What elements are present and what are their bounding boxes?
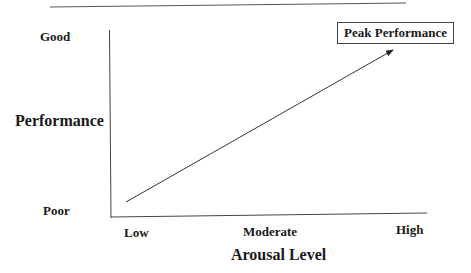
peak-performance-box: Peak Performance — [337, 22, 454, 44]
y-axis-title: Performance — [15, 112, 104, 130]
x-label-high: High — [396, 222, 423, 238]
top-rule — [50, 3, 406, 7]
trend-arrow — [126, 50, 393, 202]
x-label-moderate: Moderate — [243, 224, 297, 240]
y-label-good: Good — [40, 29, 70, 45]
y-axis — [110, 30, 112, 218]
x-label-low: Low — [124, 225, 149, 241]
y-label-poor: Poor — [43, 203, 70, 219]
x-axis-title: Arousal Level — [231, 246, 326, 264]
x-axis — [111, 213, 427, 217]
